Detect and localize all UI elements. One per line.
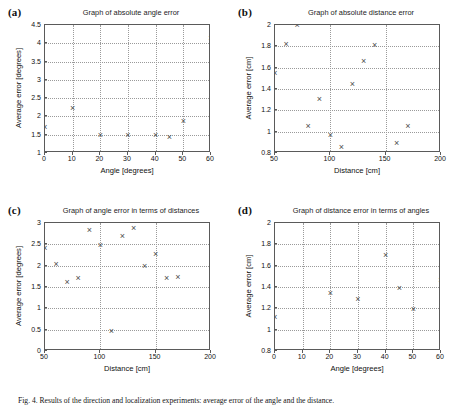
y-tick-label: 1.6 (261, 261, 271, 268)
x-tick-mark (210, 350, 211, 353)
x-tick-mark (99, 152, 100, 155)
y-tick-mark (44, 79, 47, 80)
y-tick-label: 1.2 (261, 106, 271, 113)
x-tick-label: 100 (323, 155, 335, 162)
y-tick-mark (274, 131, 277, 132)
y-tick-label: 1.4 (261, 85, 271, 92)
y-tick-label: 1.8 (261, 42, 271, 49)
x-tick-label: 100 (93, 353, 105, 360)
x-tick-label: 60 (436, 353, 444, 360)
y-tick-mark (44, 61, 47, 62)
y-tick-mark (274, 67, 277, 68)
x-tick-label: 10 (298, 353, 306, 360)
panel-label-b: (b) (238, 6, 252, 18)
x-tick-label: 200 (434, 155, 446, 162)
y-tick-label: 1.5 (31, 130, 41, 137)
y-tick-label: 0.5 (31, 325, 41, 332)
x-tick-mark (155, 350, 156, 353)
y-tick-mark (44, 265, 47, 266)
x-axis-label-a: Angle [degrees] (44, 166, 210, 175)
x-tick-label: 30 (123, 155, 131, 162)
x-tick-mark (329, 350, 330, 353)
y-tick-label: 2 (267, 21, 271, 28)
x-tick-mark (182, 152, 183, 155)
x-tick-mark (99, 350, 100, 353)
y-tick-mark (274, 45, 277, 46)
y-tick-mark (44, 286, 47, 287)
panel-b: (b) Graph of absolute distance error 0.8… (230, 6, 460, 198)
y-tick-mark (274, 24, 277, 25)
y-tick-mark (44, 24, 47, 25)
x-tick-mark (127, 152, 128, 155)
x-tick-mark (385, 152, 386, 155)
panel-c: (c) Graph of angle error in terms of dis… (0, 204, 230, 396)
y-tick-label: 1 (267, 325, 271, 332)
panel-label-a: (a) (8, 6, 21, 18)
y-tick-mark (274, 88, 277, 89)
x-tick-label: 0 (272, 353, 276, 360)
x-tick-label: 60 (206, 155, 214, 162)
y-tick-label: 1.4 (261, 283, 271, 290)
x-tick-mark (274, 350, 275, 353)
x-axis-label-c: Distance [cm] (44, 364, 210, 373)
x-tick-mark (72, 152, 73, 155)
x-tick-mark (329, 152, 330, 155)
axis-layer-a: 11.522.533.544.50102030405060 (44, 24, 210, 152)
panel-d: (d) Graph of distance error in terms of … (230, 204, 460, 396)
x-tick-mark (385, 350, 386, 353)
y-tick-mark (274, 286, 277, 287)
y-axis-label-b: Average error [cm] (244, 24, 253, 152)
figure-container: (a) Graph of absolute angle error 11.522… (0, 0, 460, 408)
axis-layer-c: 00.511.522.5350100150200 (44, 222, 210, 350)
y-tick-label: 1.6 (261, 63, 271, 70)
y-tick-label: 2.5 (31, 240, 41, 247)
y-tick-label: 1.2 (261, 304, 271, 311)
x-tick-mark (412, 350, 413, 353)
y-tick-mark (44, 115, 47, 116)
y-tick-label: 1.5 (31, 283, 41, 290)
panel-title-d: Graph of distance error in terms of angl… (266, 206, 456, 215)
x-tick-label: 150 (149, 353, 161, 360)
x-axis-label-d: Angle [degrees] (274, 364, 440, 373)
x-tick-mark (155, 152, 156, 155)
panel-title-a: Graph of absolute angle error (36, 8, 226, 17)
y-tick-label: 1 (37, 149, 41, 156)
y-tick-label: 3 (37, 219, 41, 226)
x-tick-label: 40 (381, 353, 389, 360)
x-tick-mark (302, 350, 303, 353)
y-tick-label: 2 (267, 219, 271, 226)
x-tick-label: 50 (408, 353, 416, 360)
y-tick-label: 4 (37, 39, 41, 46)
x-axis-label-b: Distance [cm] (274, 166, 440, 175)
y-tick-mark (44, 134, 47, 135)
y-tick-label: 4.5 (31, 21, 41, 28)
y-tick-label: 1 (267, 127, 271, 134)
panel-label-d: (d) (238, 204, 252, 216)
x-tick-label: 20 (95, 155, 103, 162)
panel-label-c: (c) (8, 204, 21, 216)
y-tick-label: 1 (37, 304, 41, 311)
x-tick-label: 150 (379, 155, 391, 162)
y-tick-mark (274, 307, 277, 308)
y-tick-mark (274, 329, 277, 330)
y-tick-mark (44, 42, 47, 43)
y-tick-label: 3.5 (31, 57, 41, 64)
x-tick-mark (357, 350, 358, 353)
x-tick-label: 200 (204, 353, 216, 360)
y-tick-mark (274, 109, 277, 110)
y-tick-label: 2.5 (31, 94, 41, 101)
x-tick-mark (440, 152, 441, 155)
x-tick-label: 30 (353, 353, 361, 360)
y-tick-label: 3 (37, 75, 41, 82)
y-tick-mark (274, 265, 277, 266)
x-tick-label: 50 (40, 353, 48, 360)
x-tick-label: 20 (325, 353, 333, 360)
axis-layer-b: 0.811.21.41.61.8250100150200 (274, 24, 440, 152)
y-tick-mark (44, 222, 47, 223)
x-tick-label: 40 (151, 155, 159, 162)
x-tick-mark (44, 152, 45, 155)
x-tick-mark (210, 152, 211, 155)
x-tick-mark (44, 350, 45, 353)
y-axis-label-d: Average error [cm] (244, 222, 253, 350)
y-tick-mark (274, 222, 277, 223)
